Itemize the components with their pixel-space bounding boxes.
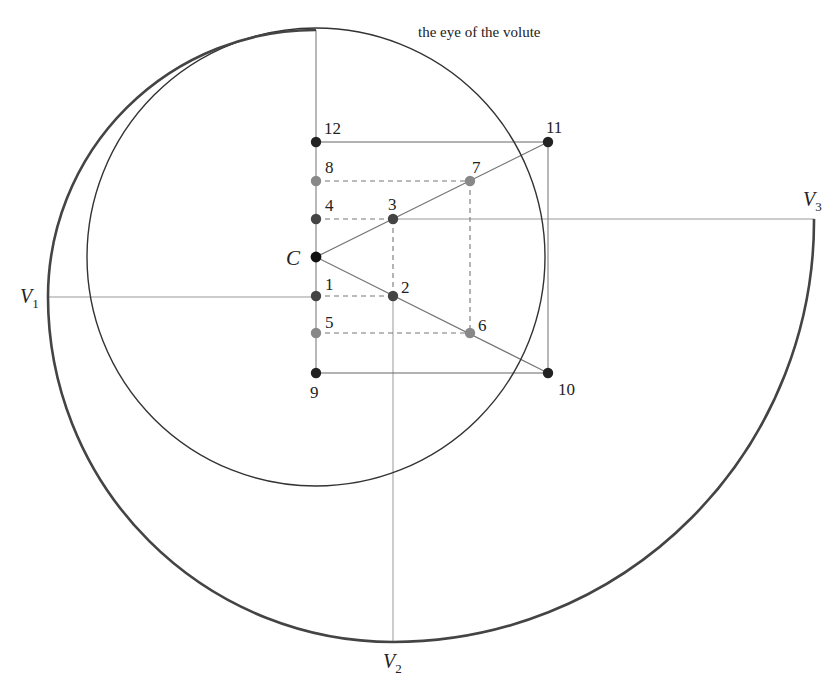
label-10: 10 bbox=[558, 380, 575, 399]
label-3: 3 bbox=[388, 195, 397, 214]
point-10 bbox=[543, 368, 553, 378]
label-9: 9 bbox=[310, 383, 319, 402]
point-12 bbox=[311, 137, 321, 147]
label-12: 12 bbox=[324, 119, 341, 138]
point-3 bbox=[388, 214, 398, 224]
point-2 bbox=[388, 291, 398, 301]
label-1: 1 bbox=[325, 275, 334, 294]
label-v3: V3 bbox=[803, 188, 822, 214]
diagonal-c-10 bbox=[316, 257, 548, 373]
label-v1: V1 bbox=[20, 285, 39, 311]
volute-diagram: the eye of the volute C 12 11 8 7 4 3 1 … bbox=[0, 0, 833, 687]
center-label: C bbox=[286, 246, 301, 270]
point-5 bbox=[311, 328, 321, 338]
label-11: 11 bbox=[546, 118, 562, 137]
diagram-title: the eye of the volute bbox=[418, 24, 541, 40]
diagonal-c-11 bbox=[316, 142, 548, 257]
point-8 bbox=[311, 176, 321, 186]
volute-spiral bbox=[48, 30, 814, 642]
label-2: 2 bbox=[401, 278, 410, 297]
point-4 bbox=[311, 214, 321, 224]
label-7: 7 bbox=[472, 158, 481, 177]
label-8: 8 bbox=[325, 158, 334, 177]
label-5: 5 bbox=[325, 313, 334, 332]
point-7 bbox=[465, 176, 475, 186]
label-6: 6 bbox=[478, 316, 487, 335]
point-9 bbox=[311, 368, 321, 378]
point-11 bbox=[543, 137, 553, 147]
diagram-svg: the eye of the volute C 12 11 8 7 4 3 1 … bbox=[0, 0, 833, 687]
point-6 bbox=[465, 328, 475, 338]
point-c bbox=[311, 252, 322, 263]
label-4: 4 bbox=[325, 196, 334, 215]
point-1 bbox=[311, 291, 321, 301]
label-v2: V2 bbox=[383, 650, 402, 676]
